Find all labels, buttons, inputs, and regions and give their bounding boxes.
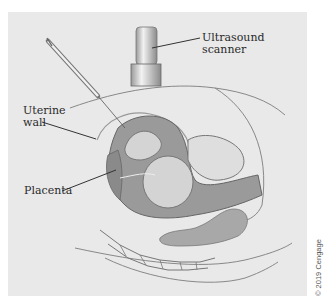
scanner-label-line2: scanner — [202, 44, 265, 56]
bladder — [188, 135, 244, 180]
placenta — [107, 150, 123, 200]
uterine-wall-label-line2: wall — [23, 117, 66, 129]
uterine-wall-label: Uterine wall — [23, 105, 66, 129]
ultrasound-scanner-icon — [131, 27, 161, 86]
placenta-label: Placenta — [24, 185, 72, 197]
scanner-leader-line — [152, 38, 200, 48]
scanner-label: Ultrasound scanner — [202, 32, 265, 56]
copyright-credit: © 2019 Cengage — [314, 239, 323, 296]
fetus-body — [143, 156, 193, 208]
amniocentesis-illustration — [0, 0, 325, 304]
